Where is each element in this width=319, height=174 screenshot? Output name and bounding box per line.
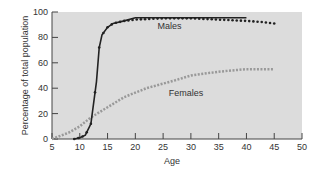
males-point: [194, 17, 197, 20]
males-point: [256, 20, 259, 23]
x-tick-label: 10: [75, 142, 85, 152]
series-label-males: Males: [158, 21, 183, 31]
x-tick-label: 35: [214, 142, 224, 152]
males-point: [156, 17, 159, 20]
males-point: [127, 19, 130, 22]
x-tick-label: 15: [103, 142, 113, 152]
x-tick-label: 50: [297, 142, 307, 152]
males-point: [177, 17, 180, 20]
males-point: [260, 21, 263, 24]
males-point: [131, 19, 134, 22]
y-tick-label: 60: [38, 58, 48, 68]
males-point: [94, 91, 97, 94]
males-point: [98, 46, 101, 49]
y-axis-label: Percentage of total population: [20, 16, 30, 136]
males-point: [119, 21, 122, 24]
males-point: [273, 22, 276, 25]
males-point: [210, 18, 213, 21]
x-tick-label: 30: [186, 142, 196, 152]
males-point: [106, 26, 109, 29]
males-point: [231, 19, 234, 22]
males-point: [223, 19, 226, 22]
males-point: [269, 22, 272, 25]
males-point: [206, 18, 209, 21]
males-point: [219, 18, 222, 21]
males-point: [181, 17, 184, 20]
males-point: [252, 20, 255, 23]
y-tick-label: 40: [38, 83, 48, 93]
males-point: [152, 17, 155, 20]
x-tick-label: 5: [49, 142, 54, 152]
males-point: [235, 19, 238, 22]
males-point: [265, 21, 268, 24]
chart: 0204060801005101520253035404550AgePercen…: [0, 0, 319, 174]
males-point: [160, 17, 163, 20]
y-tick-label: 100: [33, 7, 48, 17]
x-tick-label: 25: [158, 142, 168, 152]
x-tick-label: 40: [241, 142, 251, 152]
males-point: [240, 19, 243, 22]
males-point: [73, 138, 76, 141]
males-point: [85, 131, 88, 134]
males-point: [190, 17, 193, 20]
males-point: [123, 20, 126, 23]
males-point: [248, 20, 251, 23]
males-point: [77, 137, 80, 140]
males-point: [110, 23, 113, 26]
x-tick-label: 45: [269, 142, 279, 152]
males-point: [165, 17, 168, 20]
males-point: [140, 18, 143, 21]
males-point: [169, 17, 172, 20]
males-point: [81, 135, 84, 138]
males-point: [244, 20, 247, 23]
males-point: [215, 18, 218, 21]
y-tick-label: 0: [43, 134, 48, 144]
males-point: [115, 21, 118, 24]
males-point: [90, 122, 93, 125]
males-point: [202, 18, 205, 21]
x-tick-label: 20: [130, 142, 140, 152]
males-point: [135, 18, 138, 21]
males-point: [148, 18, 151, 21]
males-point: [198, 17, 201, 20]
x-axis-label: Age: [164, 156, 180, 166]
series-label-females: Females: [169, 88, 204, 98]
males-point: [144, 18, 147, 21]
y-tick-label: 80: [38, 32, 48, 42]
males-point: [173, 17, 176, 20]
males-point: [185, 17, 188, 20]
y-tick-label: 20: [38, 109, 48, 119]
males-point: [227, 19, 230, 22]
males-point: [102, 32, 105, 35]
